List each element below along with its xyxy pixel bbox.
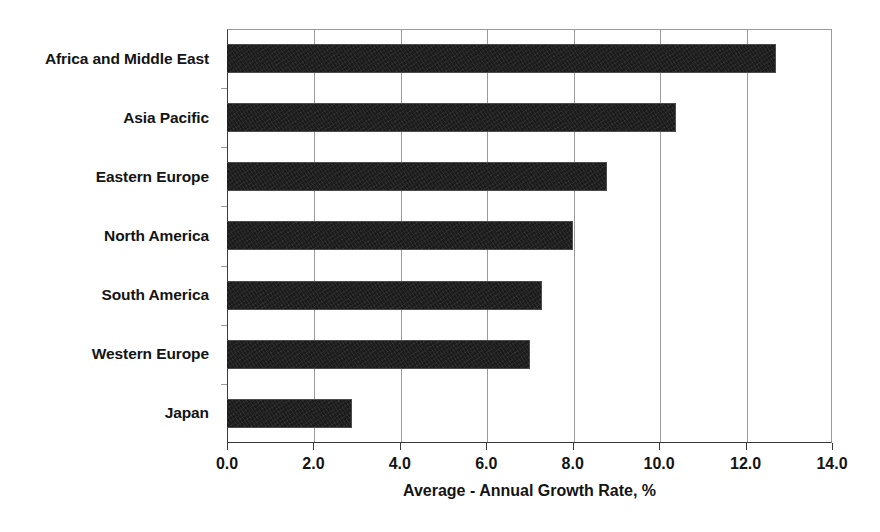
bar[interactable] (227, 340, 530, 369)
bar[interactable] (227, 281, 542, 310)
x-tick-8.0 (573, 443, 574, 450)
x-axis-title: Average - Annual Growth Rate, % (227, 482, 832, 500)
bars-layer (227, 29, 832, 443)
x-tick-2.0 (313, 443, 314, 450)
x-tick-label: 8.0 (562, 455, 584, 473)
x-tick-label: 10.0 (644, 455, 675, 473)
x-tick-label: 6.0 (475, 455, 497, 473)
category-label: Africa and Middle East (0, 29, 219, 88)
bar[interactable] (227, 399, 352, 428)
category-tick (221, 88, 227, 89)
x-tick-label: 4.0 (389, 455, 411, 473)
bar[interactable] (227, 103, 676, 132)
category-tick (221, 384, 227, 385)
x-tick-14.0 (832, 443, 833, 450)
bar[interactable] (227, 44, 776, 73)
category-label: Eastern Europe (0, 147, 219, 206)
x-tick-10.0 (659, 443, 660, 450)
category-label: South America (0, 266, 219, 325)
category-label: Japan (0, 384, 219, 443)
x-tick-0.0 (227, 443, 228, 450)
category-axis-labels: Africa and Middle EastAsia PacificEaster… (0, 29, 219, 443)
x-tick-label: 0.0 (216, 455, 238, 473)
bar-slot (227, 266, 832, 325)
bar-slot (227, 29, 832, 88)
bar-chart: Africa and Middle EastAsia PacificEaster… (0, 0, 880, 532)
x-tick-label: 12.0 (730, 455, 761, 473)
x-tick-4.0 (400, 443, 401, 450)
bar[interactable] (227, 221, 573, 250)
category-tick (221, 325, 227, 326)
bar-slot (227, 147, 832, 206)
x-tick-label: 14.0 (816, 455, 847, 473)
bar-slot (227, 206, 832, 265)
bar-slot (227, 88, 832, 147)
x-tick-12.0 (746, 443, 747, 450)
category-tick (221, 206, 227, 207)
x-tick-label: 2.0 (302, 455, 324, 473)
x-tick-6.0 (486, 443, 487, 450)
category-label: North America (0, 206, 219, 265)
bar-slot (227, 325, 832, 384)
bar-slot (227, 384, 832, 443)
bar[interactable] (227, 162, 607, 191)
category-tick (221, 266, 227, 267)
category-tick (221, 147, 227, 148)
category-label: Western Europe (0, 325, 219, 384)
category-label: Asia Pacific (0, 88, 219, 147)
